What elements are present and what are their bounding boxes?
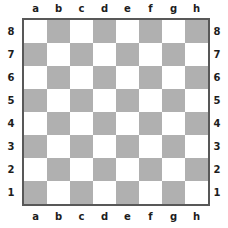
square-g8[interactable] bbox=[162, 20, 185, 43]
file-label-a-bottom: a bbox=[24, 209, 47, 225]
rank-label-4-left: 4 bbox=[1, 112, 21, 135]
file-label-a-top: a bbox=[24, 1, 47, 17]
square-c8[interactable] bbox=[70, 20, 93, 43]
square-a6[interactable] bbox=[24, 66, 47, 89]
file-label-c-top: c bbox=[70, 1, 93, 17]
square-b4[interactable] bbox=[47, 112, 70, 135]
rank-label-7-right: 7 bbox=[207, 43, 227, 66]
square-g4[interactable] bbox=[162, 112, 185, 135]
square-f5[interactable] bbox=[139, 89, 162, 112]
file-label-f-top: f bbox=[139, 1, 162, 17]
square-h8[interactable] bbox=[185, 20, 208, 43]
square-e5[interactable] bbox=[116, 89, 139, 112]
rank-label-3-right: 3 bbox=[207, 135, 227, 158]
square-b1[interactable] bbox=[47, 181, 70, 204]
square-a5[interactable] bbox=[24, 89, 47, 112]
file-label-d-top: d bbox=[93, 1, 116, 17]
file-label-b-top: b bbox=[47, 1, 70, 17]
square-h3[interactable] bbox=[185, 135, 208, 158]
square-b7[interactable] bbox=[47, 43, 70, 66]
square-h7[interactable] bbox=[185, 43, 208, 66]
square-d3[interactable] bbox=[93, 135, 116, 158]
square-h2[interactable] bbox=[185, 158, 208, 181]
board-grid[interactable] bbox=[24, 20, 208, 204]
file-label-h-top: h bbox=[185, 1, 208, 17]
file-label-c-bottom: c bbox=[70, 209, 93, 225]
file-label-h-bottom: h bbox=[185, 209, 208, 225]
square-h6[interactable] bbox=[185, 66, 208, 89]
square-h4[interactable] bbox=[185, 112, 208, 135]
square-f7[interactable] bbox=[139, 43, 162, 66]
file-label-b-bottom: b bbox=[47, 209, 70, 225]
square-b2[interactable] bbox=[47, 158, 70, 181]
square-d2[interactable] bbox=[93, 158, 116, 181]
square-g3[interactable] bbox=[162, 135, 185, 158]
square-e8[interactable] bbox=[116, 20, 139, 43]
file-label-e-bottom: e bbox=[116, 209, 139, 225]
square-d1[interactable] bbox=[93, 181, 116, 204]
rank-label-4-right: 4 bbox=[207, 112, 227, 135]
square-c1[interactable] bbox=[70, 181, 93, 204]
square-e7[interactable] bbox=[116, 43, 139, 66]
file-label-f-bottom: f bbox=[139, 209, 162, 225]
square-c7[interactable] bbox=[70, 43, 93, 66]
square-f2[interactable] bbox=[139, 158, 162, 181]
rank-label-8-left: 8 bbox=[1, 20, 21, 43]
square-c2[interactable] bbox=[70, 158, 93, 181]
rank-labels-right: 87654321 bbox=[207, 20, 227, 204]
square-c3[interactable] bbox=[70, 135, 93, 158]
square-d5[interactable] bbox=[93, 89, 116, 112]
square-d4[interactable] bbox=[93, 112, 116, 135]
square-e3[interactable] bbox=[116, 135, 139, 158]
file-labels-top: abcdefgh bbox=[24, 1, 208, 17]
chessboard-widget: abcdefgh 87654321 87654321 abcdefgh bbox=[0, 0, 228, 228]
file-label-d-bottom: d bbox=[93, 209, 116, 225]
rank-label-3-left: 3 bbox=[1, 135, 21, 158]
rank-label-5-left: 5 bbox=[1, 89, 21, 112]
square-h5[interactable] bbox=[185, 89, 208, 112]
square-f6[interactable] bbox=[139, 66, 162, 89]
board-frame bbox=[22, 18, 210, 206]
square-g6[interactable] bbox=[162, 66, 185, 89]
square-b5[interactable] bbox=[47, 89, 70, 112]
square-a3[interactable] bbox=[24, 135, 47, 158]
file-label-e-top: e bbox=[116, 1, 139, 17]
square-d6[interactable] bbox=[93, 66, 116, 89]
square-e2[interactable] bbox=[116, 158, 139, 181]
square-b3[interactable] bbox=[47, 135, 70, 158]
square-a4[interactable] bbox=[24, 112, 47, 135]
square-d8[interactable] bbox=[93, 20, 116, 43]
rank-label-7-left: 7 bbox=[1, 43, 21, 66]
square-f1[interactable] bbox=[139, 181, 162, 204]
square-d7[interactable] bbox=[93, 43, 116, 66]
square-a7[interactable] bbox=[24, 43, 47, 66]
square-a8[interactable] bbox=[24, 20, 47, 43]
rank-label-6-right: 6 bbox=[207, 66, 227, 89]
square-c6[interactable] bbox=[70, 66, 93, 89]
square-g5[interactable] bbox=[162, 89, 185, 112]
file-labels-bottom: abcdefgh bbox=[24, 209, 208, 225]
rank-label-6-left: 6 bbox=[1, 66, 21, 89]
square-c5[interactable] bbox=[70, 89, 93, 112]
square-c4[interactable] bbox=[70, 112, 93, 135]
square-h1[interactable] bbox=[185, 181, 208, 204]
square-e1[interactable] bbox=[116, 181, 139, 204]
square-a1[interactable] bbox=[24, 181, 47, 204]
square-a2[interactable] bbox=[24, 158, 47, 181]
rank-label-2-left: 2 bbox=[1, 158, 21, 181]
square-f3[interactable] bbox=[139, 135, 162, 158]
square-f4[interactable] bbox=[139, 112, 162, 135]
rank-label-2-right: 2 bbox=[207, 158, 227, 181]
square-g1[interactable] bbox=[162, 181, 185, 204]
square-f8[interactable] bbox=[139, 20, 162, 43]
square-b6[interactable] bbox=[47, 66, 70, 89]
square-e6[interactable] bbox=[116, 66, 139, 89]
square-e4[interactable] bbox=[116, 112, 139, 135]
file-label-g-top: g bbox=[162, 1, 185, 17]
rank-label-1-right: 1 bbox=[207, 181, 227, 204]
rank-label-1-left: 1 bbox=[1, 181, 21, 204]
square-g2[interactable] bbox=[162, 158, 185, 181]
rank-labels-left: 87654321 bbox=[1, 20, 21, 204]
square-g7[interactable] bbox=[162, 43, 185, 66]
square-b8[interactable] bbox=[47, 20, 70, 43]
